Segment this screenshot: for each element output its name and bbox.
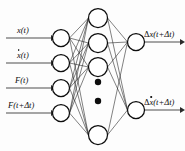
input-node-4: [53, 105, 70, 122]
connection-hidden-1-output-1: [108, 18, 128, 42]
input-label-2: x(t): [17, 51, 29, 60]
input-label-3: F(t): [15, 76, 28, 85]
hidden-ellipsis-dot-1: [95, 79, 101, 85]
output-arrow-head-1: [180, 39, 185, 45]
hidden-node-2: [89, 34, 108, 53]
connection-hidden-1-output-2: [108, 18, 128, 110]
neural-network-figure: x(t)x(t)F(t)F(t+Δt)Δx(t+Δt)Δx(t+Δt): [0, 0, 185, 151]
input-label-argument-3: (t): [20, 75, 28, 85]
input-node-1: [53, 30, 70, 47]
output-arrow-head-2: [180, 107, 185, 113]
connection-hidden-2-output-1: [108, 42, 128, 43]
connection-input-3-hidden-4: [70, 88, 89, 135]
input-label-1: x(t): [17, 26, 29, 35]
input-label-variable-2: x: [17, 51, 21, 60]
input-label-argument-4: (t+Δt): [13, 100, 34, 110]
hidden-node-3: [89, 58, 108, 77]
input-label-argument-2: (t): [21, 50, 29, 60]
input-node-3: [53, 80, 70, 97]
output-node-1: [128, 34, 145, 51]
input-node-2: [53, 55, 70, 72]
output-label-variable-2: x: [149, 98, 153, 107]
connection-hidden-4-output-2: [108, 110, 128, 135]
output-label-argument-1: (t+Δt): [153, 29, 174, 39]
connection-input-2-hidden-1: [70, 18, 89, 63]
hidden-ellipsis-dot-2: [95, 98, 101, 104]
output-node-2: [128, 102, 145, 119]
output-label-argument-2: (t+Δt): [153, 97, 174, 107]
output-label-1: Δx(t+Δt): [144, 30, 174, 39]
connection-hidden-2-output-2: [108, 43, 128, 110]
input-label-argument-1: (t): [21, 25, 29, 35]
network-nodes: [53, 9, 145, 145]
connection-hidden-4-output-1: [108, 42, 128, 135]
ellipsis-dots: [95, 79, 101, 104]
output-label-2: Δx(t+Δt): [144, 98, 174, 107]
hidden-node-4: [89, 126, 108, 145]
hidden-node-1: [89, 9, 108, 28]
input-label-4: F(t+Δt): [8, 101, 34, 110]
